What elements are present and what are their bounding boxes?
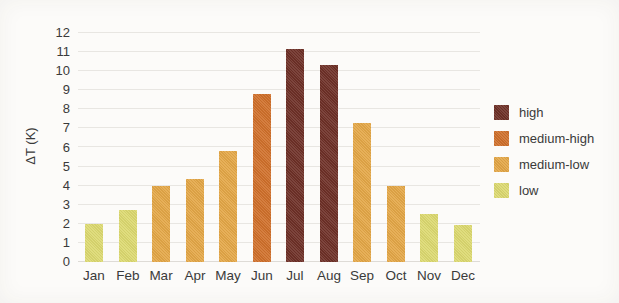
y-tick-label: 9: [0, 82, 70, 98]
bar-dec: [454, 225, 472, 262]
y-tick-label: 12: [0, 25, 70, 41]
bar-mar: [152, 186, 170, 262]
gridline: [78, 204, 480, 205]
y-tick-label: 4: [0, 178, 70, 194]
gridline: [78, 32, 480, 33]
y-tick-label: 0: [0, 254, 70, 270]
y-tick-label: 1: [0, 235, 70, 251]
bar-nov: [420, 214, 438, 262]
bar-oct: [387, 186, 405, 262]
gridline: [78, 70, 480, 71]
y-tick-label: 8: [0, 101, 70, 117]
bar-apr: [186, 179, 204, 262]
legend-swatch-low: [494, 183, 509, 198]
y-tick-label: 2: [0, 216, 70, 232]
legend-entry-medium-low: medium-low: [494, 157, 594, 172]
bar-sep: [353, 123, 371, 262]
legend-swatch-high: [494, 105, 509, 120]
chart-figure: ΔT (K) 0123456789101112 JanFebMarAprMayJ…: [0, 0, 619, 303]
gridline: [78, 166, 480, 167]
gridline: [78, 185, 480, 186]
plot-area: [78, 33, 480, 262]
gridline: [78, 108, 480, 109]
legend-entry-low: low: [494, 183, 594, 198]
gridline: [78, 89, 480, 90]
legend-entry-high: high: [494, 105, 594, 120]
y-tick-label: 10: [0, 63, 70, 79]
bar-may: [219, 151, 237, 262]
y-tick-label: 11: [0, 44, 70, 60]
legend-label: medium-high: [519, 131, 594, 146]
legend-label: high: [519, 105, 544, 120]
gridline: [78, 51, 480, 52]
legend-label: medium-low: [519, 157, 589, 172]
y-tick-label: 5: [0, 159, 70, 175]
bar-jun: [253, 94, 271, 262]
bar-jul: [286, 49, 304, 262]
x-tick-label-dec: Dec: [437, 268, 489, 283]
legend-swatch-medium-low: [494, 157, 509, 172]
y-tick-label: 3: [0, 197, 70, 213]
gridline: [78, 146, 480, 147]
legend-entry-medium-high: medium-high: [494, 131, 594, 146]
legend-label: low: [519, 183, 539, 198]
gridline: [78, 127, 480, 128]
y-tick-label: 6: [0, 140, 70, 156]
legend: highmedium-highmedium-lowlow: [494, 105, 594, 209]
y-tick-label: 7: [0, 120, 70, 136]
bar-aug: [320, 65, 338, 262]
legend-swatch-medium-high: [494, 131, 509, 146]
bar-feb: [119, 210, 137, 262]
bar-jan: [85, 224, 103, 262]
